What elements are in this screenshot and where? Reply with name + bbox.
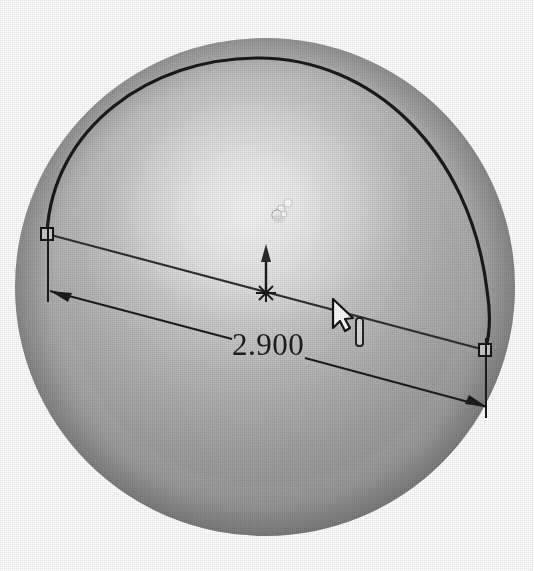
text-edit-ibeam (356, 318, 363, 346)
cad-scene[interactable]: 2.900 (0, 0, 534, 571)
dimension-value-text[interactable]: 2.900 (232, 327, 304, 362)
cad-viewport[interactable]: 2.900 (0, 0, 534, 571)
sphere-body[interactable] (0, 38, 534, 571)
